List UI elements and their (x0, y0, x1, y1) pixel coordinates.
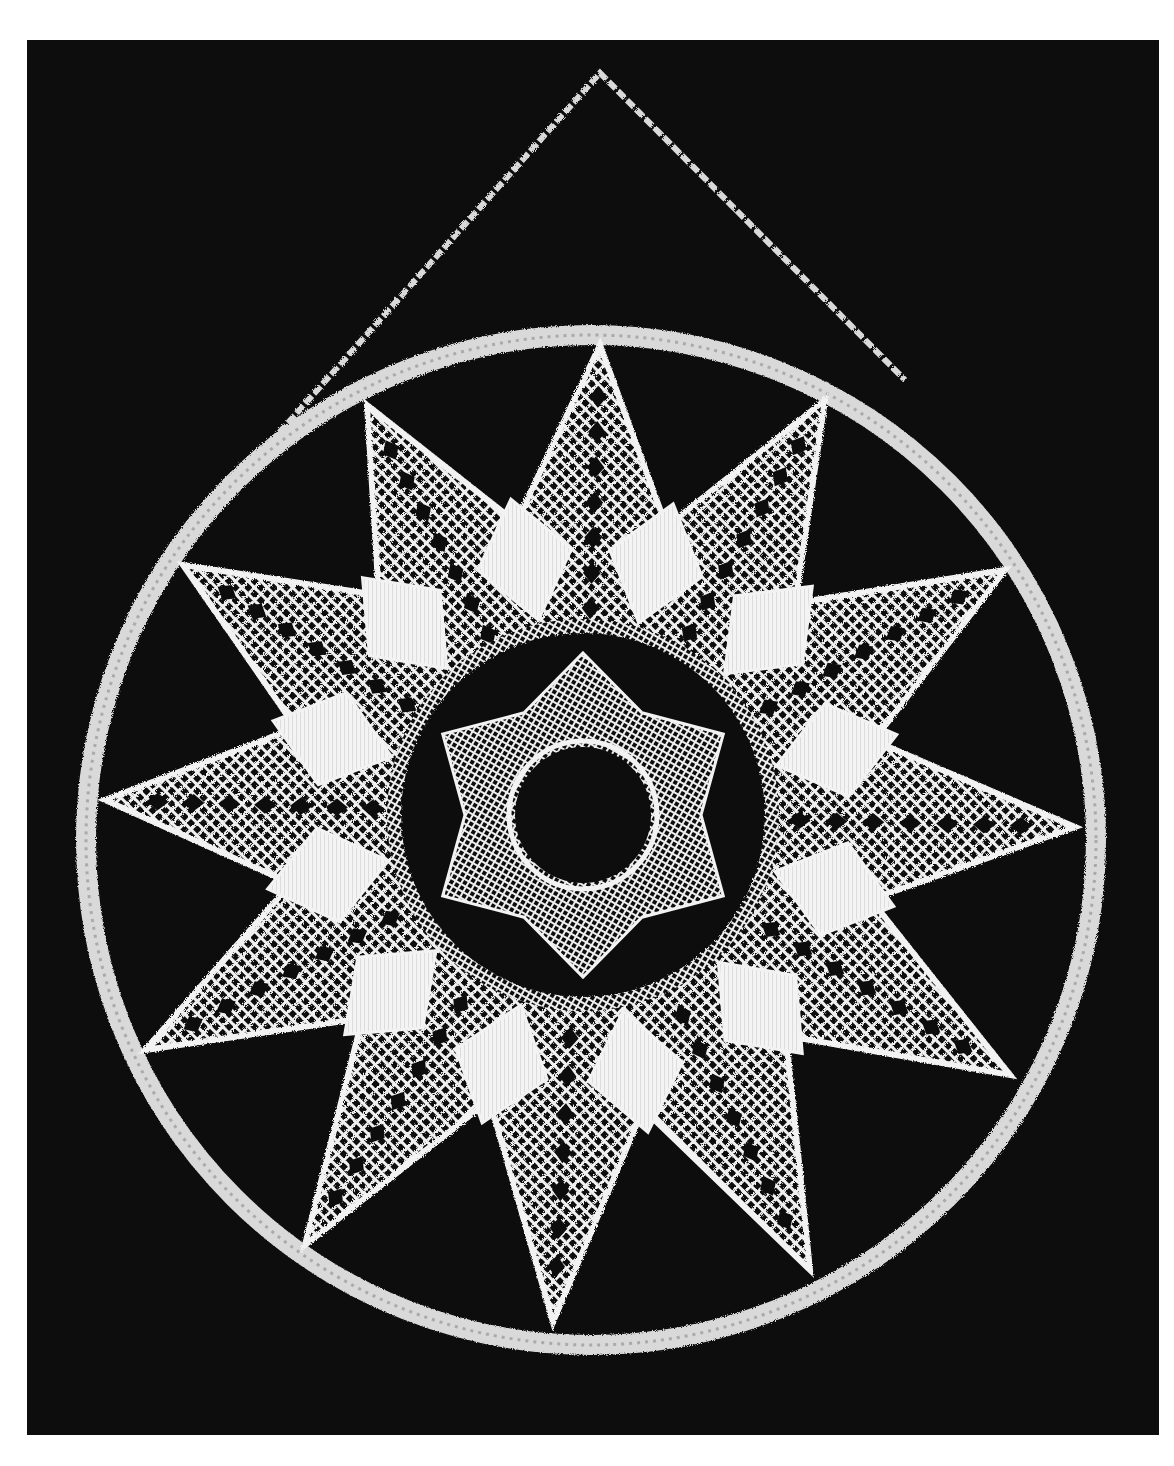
center-medallion (387, 619, 779, 1011)
lace-star-photograph (0, 0, 1174, 1466)
